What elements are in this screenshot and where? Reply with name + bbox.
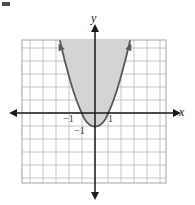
y-axis-arrow-up [91, 24, 99, 32]
x-axis-arrow-left [9, 109, 17, 117]
graph-figure [0, 0, 195, 205]
x-tick-label-positive-one: 1 [108, 114, 113, 124]
y-axis-label: y [91, 12, 96, 24]
x-tick-label-negative-one: −1 [63, 114, 74, 124]
y-tick-label-negative-one: −1 [74, 126, 85, 136]
y-axis-arrow-down [91, 192, 99, 200]
x-axis-label: x [179, 106, 184, 118]
